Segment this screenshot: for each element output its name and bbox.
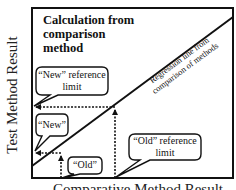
callout-new-reference-limit-text: “New” reference limit	[36, 69, 108, 93]
callout-line: “New” reference	[36, 69, 108, 81]
callout-line: limit	[36, 81, 108, 93]
method-comparison-diagram: Test Method Result Comparative Method Re…	[0, 0, 236, 190]
callout-line: limit	[129, 147, 201, 159]
callout-old-text: “Old”	[68, 159, 102, 171]
callout-old-reference-limit-text: “Old” reference limit	[129, 135, 201, 159]
diagram-title: Calculation from comparison method	[43, 13, 134, 55]
title-line: comparison	[43, 27, 134, 41]
title-line: method	[43, 41, 134, 55]
callout-line: “Old” reference	[129, 135, 201, 147]
title-line: Calculation from	[43, 13, 134, 27]
callout-new-text: “New”	[36, 119, 68, 131]
y-axis-label: Test Method Result	[4, 15, 24, 175]
x-axis-label: Comparative Method Result	[40, 181, 236, 190]
